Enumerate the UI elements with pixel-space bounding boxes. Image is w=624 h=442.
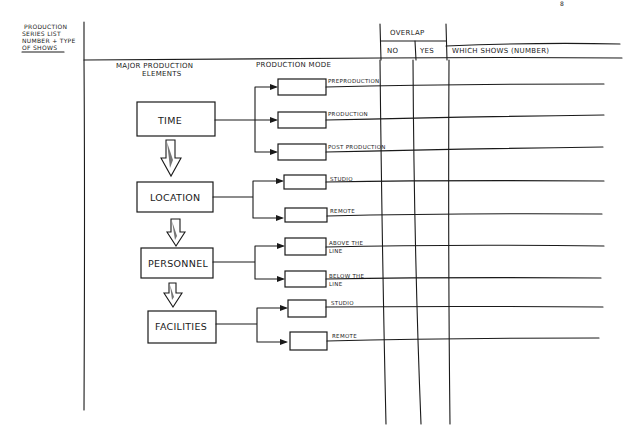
- svg-text:REMOTE: REMOTE: [332, 333, 357, 339]
- overlap-no-column-line: [380, 60, 386, 424]
- left-column-divider: [84, 22, 85, 410]
- svg-text:TIME: TIME: [157, 115, 182, 126]
- svg-text:SERIES LIST: SERIES LIST: [22, 30, 61, 37]
- svg-text:FACILITIES: FACILITIES: [155, 321, 207, 332]
- svg-text:STUDIO: STUDIO: [331, 300, 354, 306]
- header-rule: [84, 58, 622, 61]
- production-mode-header: PRODUCTION MODE: [256, 61, 331, 69]
- production-elements-worksheet: 8 PRODUCTION SERIES LIST NUMBER + TYPE O…: [0, 0, 624, 442]
- overlap-no: NO: [387, 47, 399, 55]
- overlap-yes: YES: [419, 47, 434, 55]
- element-personnel: PERSONNEL ABOVE THE LINE BELOW THE LINE: [141, 238, 365, 287]
- svg-text:LINE: LINE: [329, 281, 343, 287]
- svg-text:PRODUCTION: PRODUCTION: [24, 23, 67, 30]
- overlap-row-lines: [326, 84, 604, 341]
- svg-text:LOCATION: LOCATION: [150, 192, 200, 203]
- flow-arrow-icon: [167, 219, 185, 246]
- svg-text:REMOTE: REMOTE: [330, 208, 355, 214]
- series-list-header: PRODUCTION SERIES LIST NUMBER + TYPE OF …: [22, 23, 76, 52]
- flow-arrow-icon: [161, 140, 181, 176]
- svg-text:OF SHOWS: OF SHOWS: [22, 44, 57, 51]
- overlap-title: OVERLAP: [390, 29, 425, 37]
- major-elements-header: MAJOR PRODUCTION: [116, 62, 193, 70]
- overlap-header: OVERLAP NO YES WHICH SHOWS (NUMBER): [380, 24, 620, 60]
- page-number: 8: [560, 0, 564, 7]
- svg-text:NUMBER + TYPE: NUMBER + TYPE: [22, 37, 76, 44]
- svg-text:ELEMENTS: ELEMENTS: [142, 70, 182, 78]
- flow-arrow-icon: [164, 283, 182, 307]
- svg-text:PRODUCTION: PRODUCTION: [328, 111, 368, 117]
- svg-text:LINE: LINE: [329, 248, 343, 254]
- svg-text:PERSONNEL: PERSONNEL: [148, 258, 208, 269]
- svg-text:POST PRODUCTION: POST PRODUCTION: [328, 144, 386, 150]
- svg-text:PREPRODUCTION: PREPRODUCTION: [328, 78, 380, 84]
- which-shows-column-line: [449, 60, 450, 424]
- element-location: LOCATION STUDIO REMOTE: [137, 175, 355, 222]
- which-shows-header: WHICH SHOWS (NUMBER): [452, 47, 549, 55]
- svg-text:ABOVE THE: ABOVE THE: [329, 240, 364, 246]
- overlap-yes-column-line: [413, 60, 421, 424]
